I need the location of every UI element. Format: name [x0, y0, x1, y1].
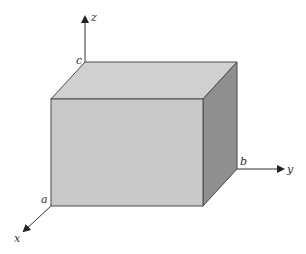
vertex-label-c: c [76, 54, 82, 67]
vertex-label-a: a [41, 193, 48, 206]
vertex-label-b: b [240, 155, 247, 168]
z-axis-label: z [90, 11, 97, 24]
box-front-face [51, 99, 203, 206]
y-axis-label: y [286, 163, 294, 176]
box-diagram: z y x c b a [0, 0, 306, 254]
x-axis-label: x [14, 232, 21, 245]
x-axis [24, 206, 51, 231]
